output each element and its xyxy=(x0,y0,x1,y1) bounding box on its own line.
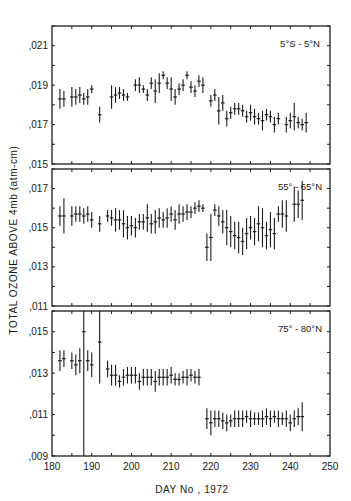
data-point xyxy=(146,89,150,101)
data-point xyxy=(177,373,181,385)
data-point xyxy=(146,204,150,231)
y-tick-label: ,011 xyxy=(29,409,48,420)
data-point xyxy=(74,206,78,222)
data-point xyxy=(70,87,74,107)
data-point xyxy=(169,206,173,222)
data-point xyxy=(249,216,253,239)
data-point xyxy=(261,111,265,131)
data-point xyxy=(273,410,277,422)
x-tick-label: 200 xyxy=(123,461,140,472)
data-point xyxy=(229,415,233,427)
data-point xyxy=(181,371,185,383)
data-point xyxy=(237,222,241,253)
data-point xyxy=(209,95,213,107)
x-axis: 180190200210220230240250 xyxy=(44,461,339,472)
panel-title: 55° - 65°N xyxy=(278,181,322,192)
data-point xyxy=(221,95,225,111)
data-point xyxy=(78,348,82,373)
data-point xyxy=(273,218,277,249)
data-point xyxy=(249,410,253,427)
data-point xyxy=(62,350,66,367)
data-point xyxy=(225,415,229,432)
data-point xyxy=(269,212,273,247)
data-point xyxy=(126,93,130,101)
data-point xyxy=(134,218,138,238)
data-point xyxy=(161,369,165,386)
data-point xyxy=(157,73,161,93)
data-point xyxy=(62,91,66,107)
data-point xyxy=(90,352,94,377)
data-point xyxy=(197,200,201,212)
data-point xyxy=(122,369,126,386)
data-point xyxy=(98,216,102,232)
data-point xyxy=(292,410,296,427)
data-point xyxy=(213,89,217,101)
data-point xyxy=(142,369,146,386)
data-point xyxy=(114,365,118,386)
data-point xyxy=(110,210,114,226)
data-point xyxy=(70,206,74,226)
data-point xyxy=(177,83,181,95)
data-point xyxy=(58,89,62,109)
data-point xyxy=(241,410,245,427)
y-tick-label: ,019 xyxy=(29,80,49,91)
data-point xyxy=(296,117,300,129)
data-point xyxy=(110,85,114,109)
data-point xyxy=(98,301,102,384)
data-point xyxy=(82,208,86,224)
data-point xyxy=(138,373,142,390)
y-tick-label: ,011 xyxy=(29,301,48,312)
y-tick-label: ,017 xyxy=(29,119,49,130)
data-point xyxy=(193,202,197,214)
data-point xyxy=(249,105,253,121)
data-point xyxy=(213,204,217,216)
y-tick-label: ,015 xyxy=(29,222,49,233)
data-point xyxy=(265,408,269,425)
data-point xyxy=(281,413,285,425)
data-point xyxy=(78,87,82,103)
data-point xyxy=(153,79,157,103)
data-point xyxy=(225,111,229,127)
chart-panels: ,021,019,017,0155°S - 5°N,017,015,013,01… xyxy=(29,26,330,477)
data-point xyxy=(157,208,161,228)
data-point xyxy=(126,216,130,239)
data-point xyxy=(165,208,169,228)
data-point xyxy=(285,410,289,427)
data-point xyxy=(245,111,249,123)
data-point xyxy=(273,117,277,133)
data-point xyxy=(74,355,78,376)
data-point xyxy=(169,367,173,384)
data-point xyxy=(173,373,177,385)
data-point xyxy=(213,410,217,427)
data-point xyxy=(265,222,269,249)
data-point xyxy=(122,210,126,237)
data-point xyxy=(142,214,146,230)
data-point xyxy=(110,365,114,386)
data-point xyxy=(253,413,257,425)
data-point xyxy=(193,85,197,97)
y-tick-label: ,015 xyxy=(29,159,49,170)
data-point xyxy=(173,89,177,105)
data-point xyxy=(134,367,138,384)
x-tick-label: 250 xyxy=(322,461,339,472)
data-point xyxy=(142,85,146,93)
data-point xyxy=(265,109,269,121)
data-point xyxy=(70,352,74,369)
data-point xyxy=(86,350,90,371)
data-point xyxy=(118,375,122,387)
data-point xyxy=(90,85,94,93)
panel-title: 5°S - 5°N xyxy=(280,38,320,49)
data-point xyxy=(173,210,177,230)
data-point xyxy=(78,206,82,222)
data-point xyxy=(205,234,209,261)
data-point xyxy=(189,206,193,218)
data-point xyxy=(118,210,122,230)
data-point xyxy=(62,198,66,233)
data-point xyxy=(149,369,153,386)
data-point xyxy=(209,214,213,261)
data-point xyxy=(82,93,86,105)
data-point xyxy=(217,97,221,125)
data-point xyxy=(138,77,142,93)
data-point xyxy=(185,204,189,220)
data-point xyxy=(269,410,273,427)
